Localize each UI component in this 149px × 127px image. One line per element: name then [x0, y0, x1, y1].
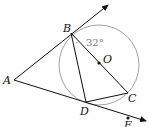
label-d: D: [79, 105, 89, 118]
point-o: [97, 61, 100, 64]
label-b: B: [62, 22, 71, 35]
angle-arc: [76, 41, 79, 43]
label-e: E: [123, 119, 132, 127]
angle-label: 32°: [86, 37, 104, 48]
label-a: A: [2, 74, 11, 87]
label-c: C: [128, 92, 137, 105]
label-o: O: [103, 53, 112, 66]
segment-bd: [71, 33, 86, 102]
geometry-diagram: A B C D O E 32°: [0, 0, 149, 127]
